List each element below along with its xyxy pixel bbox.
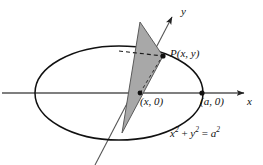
circle-equation-label: x2 + y2 = a2	[170, 128, 220, 139]
equation-x-term: x2	[170, 127, 179, 139]
point-p-label: P(x, y)	[170, 48, 199, 59]
y-axis-label: y	[181, 6, 186, 17]
point-p-dot	[160, 53, 165, 58]
figure-container: x y P(x, y) (x, 0) (a, 0) x2 + y2 = a2	[0, 0, 263, 165]
point-x-zero-label: (x, 0)	[140, 96, 163, 107]
x-axis-label: x	[247, 96, 252, 107]
exponent-a: 2	[216, 125, 220, 134]
equation-y-term: y2	[190, 127, 199, 139]
figure-canvas	[0, 0, 263, 165]
equation-a-term: a2	[211, 127, 220, 139]
shaded-triangle	[122, 22, 163, 133]
point-a-zero-label: (a, 0)	[200, 96, 224, 107]
